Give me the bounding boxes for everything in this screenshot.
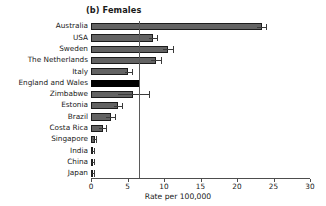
error-bar-cap-upper: [157, 35, 158, 41]
error-bar-line: [257, 27, 266, 28]
category-label: Estonia: [61, 101, 88, 109]
category-label: England and Wales: [18, 79, 88, 87]
category-label: Costa Rica: [49, 124, 88, 132]
bar-row: [91, 55, 310, 66]
bar-row: [91, 32, 310, 43]
error-bar-cap-upper: [266, 24, 267, 30]
category-label: India: [70, 147, 88, 155]
plot-area: [91, 21, 310, 179]
bar-row: [91, 89, 310, 100]
error-bar-cap-upper: [132, 69, 133, 75]
bar-australia: [91, 23, 262, 30]
error-bar-line: [125, 72, 132, 73]
error-bar-line: [118, 94, 149, 95]
error-bar-cap-upper: [173, 46, 174, 52]
error-bar-cap-upper: [161, 57, 162, 63]
bar-england-and-wales: [91, 80, 139, 87]
error-bar-cap-upper: [96, 136, 97, 142]
bar-italy: [91, 68, 128, 75]
error-bar-line: [151, 60, 161, 61]
error-bar-cap-upper: [94, 159, 95, 165]
bar-row: [91, 77, 310, 88]
x-tick-label: 15: [196, 182, 205, 191]
error-bar-cap-upper: [149, 91, 150, 97]
error-bar-line: [149, 38, 158, 39]
error-bar-line: [114, 106, 123, 107]
x-axis-title: Rate per 100,000: [0, 192, 326, 201]
category-label: China: [67, 158, 88, 166]
error-bar-cap-upper: [106, 125, 107, 131]
reference-line: [139, 21, 140, 179]
x-tick-label: 25: [269, 182, 278, 191]
bar-row: [91, 123, 310, 134]
category-label: USA: [73, 34, 88, 42]
error-bar-cap-upper: [94, 148, 95, 154]
chart-figure: (b) Females AustraliaUSASwedenThe Nether…: [0, 0, 326, 206]
x-tick-label: 5: [125, 182, 130, 191]
error-bar-cap-upper: [115, 114, 116, 120]
bar-sweden: [91, 46, 168, 53]
category-label: Japan: [68, 169, 88, 177]
category-label: Brazil: [68, 113, 88, 121]
category-axis-labels: AustraliaUSASwedenThe NetherlandsItalyEn…: [0, 21, 88, 179]
panel-title: (b) Females: [86, 5, 141, 15]
bar-usa: [91, 34, 153, 41]
x-axis-title-text: Rate per 100,000: [115, 192, 211, 201]
bar-row: [91, 21, 310, 32]
error-bar-cap-upper: [94, 170, 95, 176]
bar-row: [91, 156, 310, 167]
error-bar-line: [163, 49, 173, 50]
category-label: The Netherlands: [28, 56, 88, 64]
bar-the-netherlands: [91, 57, 156, 64]
error-bar-line: [99, 128, 106, 129]
bar-row: [91, 111, 310, 122]
bar-row: [91, 145, 310, 156]
category-label: Singapore: [51, 135, 88, 143]
x-tick-label: 0: [89, 182, 94, 191]
category-label: Sweden: [59, 45, 88, 53]
x-tick-label: 30: [305, 182, 314, 191]
x-tick-label: 10: [159, 182, 168, 191]
bar-row: [91, 44, 310, 55]
bar-row: [91, 100, 310, 111]
x-tick-label: 20: [232, 182, 241, 191]
error-bar-line: [106, 117, 115, 118]
bar-row: [91, 134, 310, 145]
bar-row: [91, 66, 310, 77]
category-label: Australia: [56, 22, 88, 30]
category-label: Zimbabwe: [50, 90, 88, 98]
category-label: Italy: [72, 68, 88, 76]
error-bar-cap-upper: [122, 103, 123, 109]
